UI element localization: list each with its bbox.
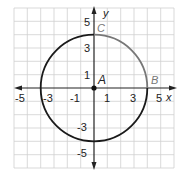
point-c-label: C bbox=[97, 22, 105, 34]
x-tick-label: -5 bbox=[15, 92, 25, 104]
point-a-label: A bbox=[97, 73, 106, 87]
x-axis-label: x bbox=[165, 91, 172, 103]
y-tick-label: 1 bbox=[84, 69, 90, 81]
arrow-left-icon bbox=[14, 86, 22, 91]
x-tick-label: 5 bbox=[156, 92, 162, 104]
point-b-label: B bbox=[151, 74, 158, 86]
x-tick-label: -1 bbox=[70, 92, 80, 104]
y-tick-label: -5 bbox=[77, 147, 87, 159]
x-tick-label: -3 bbox=[43, 92, 53, 104]
y-tick-label: 3 bbox=[84, 42, 90, 54]
coordinate-plane: y x A B C -5 -3 -1 1 3 5 5 3 1 -3 -5 bbox=[0, 0, 183, 176]
point-a bbox=[91, 85, 96, 90]
arrow-up-icon bbox=[92, 6, 97, 14]
arrow-right-icon bbox=[169, 86, 177, 91]
x-tick-label: 1 bbox=[104, 92, 110, 104]
arrow-down-icon bbox=[92, 162, 97, 170]
y-tick-label: -3 bbox=[77, 121, 87, 133]
y-tick-label: 5 bbox=[84, 16, 90, 28]
x-tick-label: 3 bbox=[130, 92, 136, 104]
y-axis-label: y bbox=[102, 7, 110, 19]
